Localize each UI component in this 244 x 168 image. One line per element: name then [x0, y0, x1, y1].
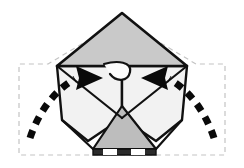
top-gray-triangle	[57, 13, 187, 66]
bottom-notch-right	[131, 149, 145, 155]
origami-figure-root	[0, 0, 244, 168]
bottom-dark-edge	[93, 149, 156, 155]
bottom-notch-left	[103, 149, 117, 155]
origami-diagram	[0, 0, 244, 168]
